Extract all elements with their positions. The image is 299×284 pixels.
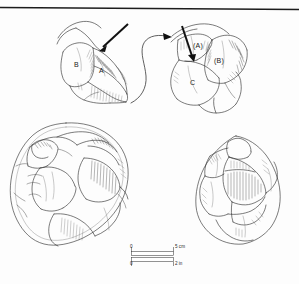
- hatch-lower-scar: [61, 218, 83, 240]
- scale-metric-start-label: 0: [130, 245, 133, 250]
- hatch-upper-facet-ovoid: [231, 161, 249, 170]
- artifact-discoidal-core: [10, 123, 128, 246]
- diagram-core-before: [57, 21, 128, 103]
- label-facet-b-left: B: [74, 61, 79, 68]
- label-block-c-right: C: [190, 79, 195, 86]
- scale-bar-imperial: [132, 258, 174, 262]
- figure-root: B A (A) (B) C 0 5 cm 0 2 in: [0, 0, 299, 284]
- hatch-central-facet-ovoid: [228, 172, 261, 200]
- transition-arrow: [131, 33, 172, 103]
- scale-bar: [132, 247, 174, 266]
- artifact-ovoid-core: [196, 136, 280, 244]
- blow-direction-arrow-left: [99, 24, 128, 52]
- label-facet-a-left: A: [99, 67, 104, 74]
- label-facet-b-right: (B): [214, 57, 224, 64]
- scale-imperial-start-label: 0: [130, 262, 133, 267]
- hatch-block-c: [174, 72, 179, 83]
- hatch-facet-b-right: [229, 40, 244, 73]
- hatch-cortex-patch: [35, 142, 52, 149]
- figure-canvas: [0, 0, 299, 284]
- scale-imperial-end-label: 2 in: [175, 262, 182, 267]
- diagram-core-after: [171, 24, 248, 113]
- hatch-right-flank-ovoid: [262, 160, 269, 174]
- hatch-right-margin-core: [118, 159, 126, 178]
- scale-bar-metric: [132, 252, 174, 256]
- hatch-upper-right-scar: [92, 138, 113, 149]
- page-top-rule: [0, 8, 299, 10]
- label-facet-a-right: (A): [193, 42, 203, 49]
- hatch-left-flank-ovoid: [202, 188, 207, 204]
- hatch-central-scar: [91, 161, 116, 194]
- scale-metric-end-label: 5 cm: [175, 245, 185, 250]
